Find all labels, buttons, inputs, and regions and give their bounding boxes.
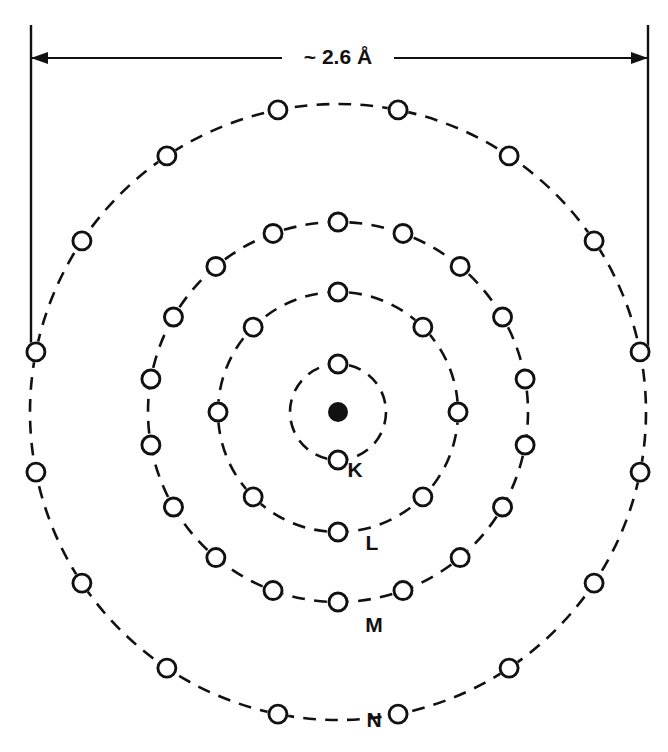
- electron-halo: [140, 368, 161, 389]
- electron-halo: [25, 341, 46, 362]
- electron-halo: [156, 145, 177, 166]
- electron-halo: [492, 306, 513, 327]
- electron-halo: [629, 341, 650, 362]
- electron-halo: [629, 461, 650, 482]
- electron-halo: [327, 211, 348, 232]
- electron-halo: [71, 230, 92, 251]
- electron-halo: [499, 657, 520, 678]
- electron-halo: [205, 547, 226, 568]
- electron-halo: [492, 496, 513, 517]
- electron-halo: [163, 496, 184, 517]
- shell-label-n: N: [366, 708, 381, 731]
- electron-halo: [327, 449, 348, 470]
- electron-halo: [387, 99, 408, 120]
- electron-halo: [515, 434, 536, 455]
- electron-halo: [243, 486, 264, 507]
- bohr-atom-diagram: ~ 2.6 Å KLMN: [0, 0, 668, 752]
- electron-halo: [243, 317, 264, 338]
- electron-halo: [25, 461, 46, 482]
- shell-labels: KLMN: [347, 458, 382, 731]
- electron-halo: [387, 703, 408, 724]
- electron-halo: [583, 230, 604, 251]
- electron-halo: [515, 368, 536, 389]
- electron-halo: [327, 281, 348, 302]
- shell-label-l: L: [366, 531, 379, 554]
- electron-halo: [392, 223, 413, 244]
- electron-halo: [447, 401, 468, 422]
- electron-halo: [327, 353, 348, 374]
- electron-halo: [412, 317, 433, 338]
- electron-halo: [156, 657, 177, 678]
- electron-halo: [71, 573, 92, 594]
- electron-halo: [267, 99, 288, 120]
- electron-halo: [262, 223, 283, 244]
- electron-halo: [327, 591, 348, 612]
- diagram-canvas: ~ 2.6 Å KLMN: [0, 0, 668, 752]
- shell-label-k: K: [347, 458, 362, 481]
- arrowhead-right-icon: [631, 52, 648, 64]
- electron-halo: [327, 521, 348, 542]
- electron-halo: [205, 256, 226, 277]
- electron-halo: [267, 703, 288, 724]
- electron-halo: [499, 145, 520, 166]
- electron-halo: [140, 434, 161, 455]
- shell-label-m: M: [365, 613, 383, 636]
- nucleus: [328, 402, 348, 422]
- arrowhead-left-icon: [31, 52, 48, 64]
- electron-halo: [583, 573, 604, 594]
- electron-halo: [450, 256, 471, 277]
- electron-halo: [262, 580, 283, 601]
- electron-halo: [207, 401, 228, 422]
- electron-halo: [392, 580, 413, 601]
- electron-halo: [450, 547, 471, 568]
- electron-halo: [163, 306, 184, 327]
- electron-halo: [412, 486, 433, 507]
- dimension-label: ~ 2.6 Å: [304, 45, 372, 68]
